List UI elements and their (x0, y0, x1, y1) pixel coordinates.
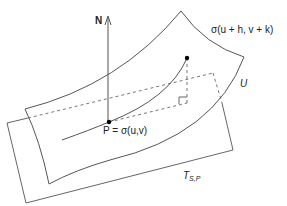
label-nearby-point: σ(u + h, v + k) (211, 25, 273, 35)
projection-line-tangent (109, 103, 187, 122)
tangent-plane-hidden-top-edge (28, 73, 213, 118)
tangent-plane-solid-edges (7, 103, 233, 203)
label-point-p: P = σ(u,v) (103, 126, 147, 136)
surface-patch (25, 11, 244, 184)
point-p (107, 120, 111, 124)
label-normal: N (95, 16, 102, 26)
point-nearby (185, 56, 189, 60)
label-tangent-plane-sub: S,P (189, 175, 200, 182)
label-surface: U (240, 79, 247, 89)
label-tangent-plane: TS,P (183, 171, 200, 182)
